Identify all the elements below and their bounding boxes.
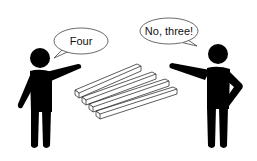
right-figure-head (208, 44, 228, 64)
impossible-bars-illusion (75, 64, 177, 119)
left-stick-figure (18, 48, 81, 148)
left-speech-bubble: Four (54, 28, 108, 58)
left-speech-text: Four (70, 35, 93, 47)
cartoon-canvas: Four No, three! (0, 0, 257, 161)
right-speech-text: No, three! (145, 25, 193, 37)
right-speech-bubble: No, three! (140, 18, 198, 46)
right-stick-figure (169, 44, 242, 148)
left-figure-head (30, 48, 50, 68)
